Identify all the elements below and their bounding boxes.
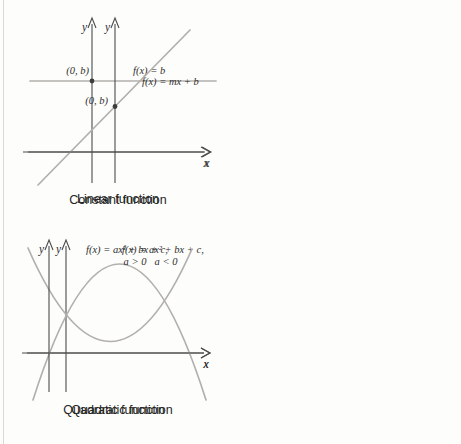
y-axis-label: y	[38, 243, 45, 256]
y-intercept-label: (0, b)	[85, 95, 108, 107]
x-axis-label: x	[203, 157, 210, 169]
x-axis-label: x	[202, 358, 209, 370]
y-axis-label: y	[104, 21, 111, 34]
figure-page: y x (0, b) f(x) = b Constant function y …	[0, 0, 461, 444]
equation-label: f(x) = mx + b	[142, 76, 199, 88]
equation-label: f(x) = ax² + bx + c,	[86, 244, 168, 256]
y-intercept-dot	[113, 104, 118, 109]
parabola-curve	[28, 248, 192, 342]
panel-caption: Quadratic function	[63, 403, 164, 417]
panel-caption: Linear function	[77, 192, 159, 206]
panel-linear-function: y x (0, b) f(x) = mx + b Linear function	[0, 0, 231, 222]
condition-label: a > 0	[124, 256, 148, 267]
panel-quadratic-positive: y x f(x) = ax² + bx + c, a > 0 Quadratic…	[0, 222, 231, 444]
